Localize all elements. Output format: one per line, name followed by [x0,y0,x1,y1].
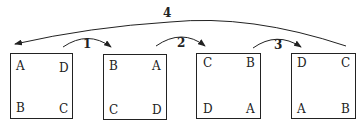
corner-label: A [296,102,306,116]
arrow-label: 3 [274,38,282,52]
arrow-1: 1 [63,37,111,51]
corner-label: B [341,102,350,116]
arrow-label: 4 [163,6,171,20]
arrow-label: 1 [83,37,91,51]
corner-label: B [16,101,25,115]
square-1: A D B C [11,54,73,119]
corner-label: A [15,59,25,73]
corner-label: C [59,102,68,116]
corner-label: B [109,59,118,73]
corner-label: D [297,56,307,70]
corner-label: A [151,59,161,73]
square-4: D C A B [292,54,356,119]
corner-label: C [341,56,350,70]
corner-label: A [245,102,255,116]
square-3: C B D A [197,54,261,119]
square-2: B A C D [104,55,167,120]
arrow-2: 2 [156,36,205,50]
arrow-label: 2 [177,36,185,50]
rotation-diagram: A D B C B A C D C B D A D C A B 1 2 3 [0,0,362,128]
corner-label: D [59,61,69,75]
corner-label: C [203,56,212,70]
corner-label: B [246,56,255,70]
corner-label: C [109,103,118,117]
arrow-3: 3 [253,38,301,52]
corner-label: D [203,102,213,116]
corner-label: D [152,103,162,117]
